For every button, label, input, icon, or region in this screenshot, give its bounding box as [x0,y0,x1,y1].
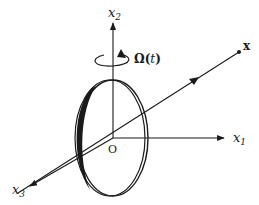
origin-label: O [108,143,117,156]
point-x-dot [237,50,241,54]
x3-label: x3 [12,182,25,199]
omega-label: Ω(t) [134,52,161,66]
x2-label: x2 [108,5,121,22]
rotation-arrow-icon [95,49,129,66]
vector-direction-arrow-icon [189,77,199,85]
point-x-label: x [243,39,251,53]
x3-axis [30,138,113,186]
rotating-disk-diagram: x2 Ω(t) x x1 O x3 [0,0,259,205]
x1-label: x1 [233,130,246,147]
position-vector-line [18,52,239,193]
